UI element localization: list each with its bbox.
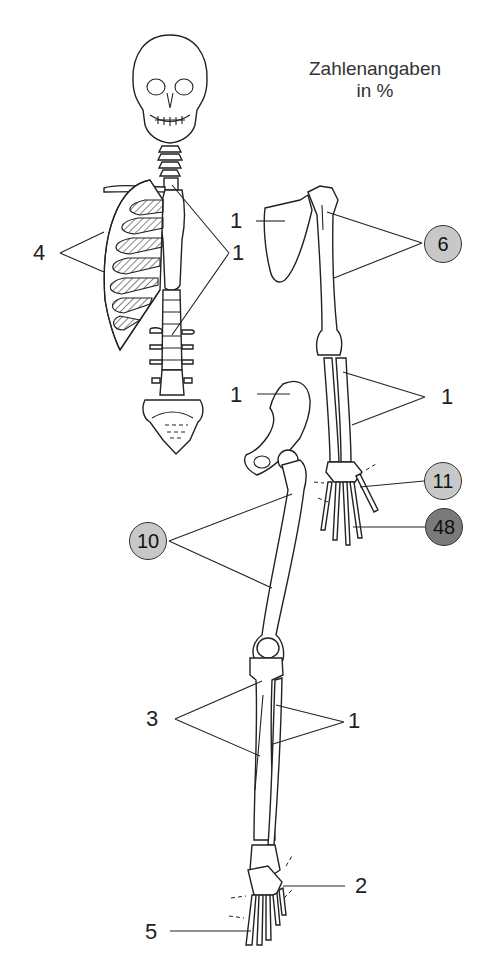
- badge-humerus: 6: [424, 225, 462, 263]
- badge-femur: 10: [129, 522, 167, 560]
- lower-leg: [250, 658, 283, 845]
- label-pelvis: 1: [230, 384, 242, 406]
- caption-line-2: in %: [300, 80, 450, 102]
- hand: [314, 462, 378, 545]
- cervical-spine: [158, 146, 182, 190]
- label-tibia: 3: [146, 708, 158, 730]
- caption-line-1: Zahlenangaben: [300, 58, 450, 80]
- femur: [253, 450, 306, 660]
- label-cervical-spine: 1: [230, 210, 242, 232]
- sacrum: [143, 400, 203, 454]
- label-ribs: 4: [33, 242, 45, 264]
- skull: [133, 35, 207, 143]
- badge-wrist: 11: [424, 462, 462, 500]
- label-toes: 5: [145, 921, 157, 943]
- foot: [229, 845, 292, 945]
- caption: Zahlenangaben in %: [300, 58, 450, 102]
- scapula: [264, 195, 312, 282]
- lumbar-spine: [150, 290, 194, 395]
- label-tarsus: 2: [355, 875, 367, 897]
- humerus: [308, 186, 342, 355]
- label-forearm: 1: [441, 386, 453, 408]
- label-thoracic-spine: 1: [232, 242, 244, 264]
- label-fibula: 1: [348, 710, 360, 732]
- badge-fingers: 48: [425, 508, 463, 546]
